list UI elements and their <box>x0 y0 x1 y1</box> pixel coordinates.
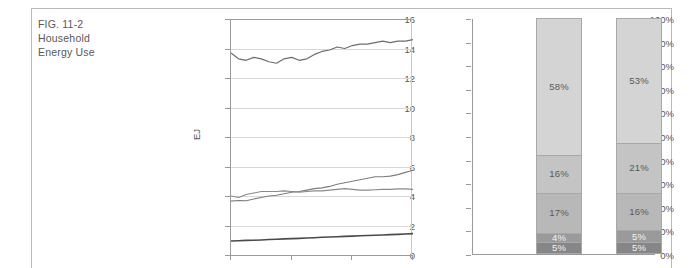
stacked-bar-2[interactable]: 53%21%16%5%5% <box>616 18 662 254</box>
bar-segment-value: 5% <box>632 243 646 253</box>
line-chart-x-tick-mark <box>230 255 231 260</box>
figure-caption: FIG. 11-2 Household Energy Use <box>38 17 158 59</box>
line-chart-y-axis-label: EJ <box>191 129 202 140</box>
bar-chart-y-tick-mark <box>466 161 471 162</box>
bar-segment: 21% <box>616 143 662 193</box>
bar-segment-value: 53% <box>629 76 649 86</box>
line-chart: EJ 0246810121416 <box>190 12 415 263</box>
line-chart-x-tick-mark <box>291 255 292 260</box>
line-chart-gridline <box>231 255 413 256</box>
caption-line-2: Household <box>38 31 158 45</box>
line-chart-x-tick-mark <box>412 255 413 260</box>
line-chart-series-svg <box>231 19 413 255</box>
bar-segment-value: 16% <box>549 169 569 179</box>
bar-segment: 53% <box>616 18 662 143</box>
line-chart-plot-area <box>230 19 412 255</box>
bar-segment-value: 17% <box>549 208 569 218</box>
bar-chart-plot-area: 58%16%17%4%5%53%21%16%5%5% <box>472 19 654 255</box>
bar-segment-value: 5% <box>632 232 646 242</box>
bar-segment: 5% <box>616 230 662 242</box>
stacked-bar-1[interactable]: 58%16%17%4%5% <box>536 18 582 254</box>
bar-segment: 5% <box>536 242 582 254</box>
bar-chart-baseline <box>473 254 655 255</box>
bar-chart-y-tick-mark <box>466 66 471 67</box>
bar-segment: 17% <box>536 193 582 233</box>
bar-segment-value: 21% <box>629 163 649 173</box>
line-series-total <box>231 40 413 64</box>
caption-line-1: FIG. 11-2 <box>38 17 158 31</box>
bar-segment: 4% <box>536 233 582 242</box>
line-series-upper-mid <box>231 189 413 198</box>
bar-segment: 58% <box>536 18 582 155</box>
bar-chart-y-tick-mark <box>466 43 471 44</box>
bar-chart-y-tick-mark <box>466 137 471 138</box>
bar-segment: 16% <box>616 193 662 231</box>
line-series-bottom <box>231 234 413 241</box>
bar-segment-value: 5% <box>552 243 566 253</box>
bar-chart-y-tick-mark <box>466 113 471 114</box>
line-series-lower-mid <box>231 170 413 201</box>
bar-chart-y-tick-mark <box>466 255 471 256</box>
bar-chart-y-tick-mark <box>466 184 471 185</box>
caption-line-3: Energy Use <box>38 45 158 59</box>
bar-chart-y-tick-mark <box>466 19 471 20</box>
bar-segment: 16% <box>536 155 582 193</box>
bar-segment-value: 16% <box>629 207 649 217</box>
bar-chart-y-tick-mark <box>466 208 471 209</box>
bar-segment: 5% <box>616 242 662 254</box>
stacked-bar-chart: 0%10%20%30%40%50%60%70%80%90%100% 58%16%… <box>424 12 674 263</box>
bar-chart-y-tick-mark <box>466 231 471 232</box>
bar-segment-value: 58% <box>549 82 569 92</box>
bar-chart-y-tick-mark <box>466 90 471 91</box>
line-chart-x-tick-mark <box>351 255 352 260</box>
